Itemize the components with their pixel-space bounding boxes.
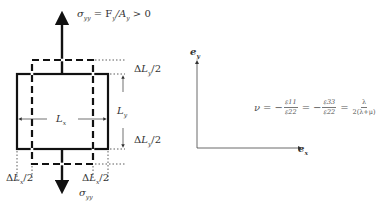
lx-label: Lx [56, 114, 66, 126]
stress-top-label: σyy = Fy/Ay > 0 [77, 9, 151, 21]
axis-y-label: ey [190, 47, 200, 59]
delta-ly-top-label: ΔLy/2 [134, 64, 161, 76]
original-specimen [17, 74, 108, 149]
nu-symbol: ν [254, 102, 260, 113]
stress-bottom-label: σyy [79, 188, 93, 200]
poisson-ratio-formula: ν = − ε11 ε22 = − ε33 ε22 = λ 2(λ+μ) [254, 99, 377, 115]
delta-ly-bottom-label: ΔLy/2 [134, 135, 161, 147]
delta-lx-right-label: ΔLx/2 [82, 173, 109, 185]
delta-lx-left-label: ΔLx/2 [6, 173, 33, 185]
fraction-eps11-eps22: ε11 ε22 [284, 99, 298, 115]
axis-x-label: ex [298, 144, 308, 156]
ly-label: Ly [117, 106, 127, 118]
fraction-eps33-eps22: ε33 ε22 [322, 99, 336, 115]
fraction-lambda: λ 2(λ+μ) [353, 99, 376, 115]
